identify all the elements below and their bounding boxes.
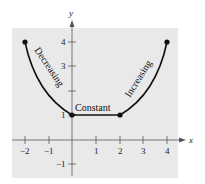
y-tick-label: −1: [56, 159, 66, 169]
point-end: [164, 39, 169, 44]
x-tick-label: 4: [165, 146, 170, 156]
x-axis-arrow-icon: [179, 138, 186, 143]
y-tick-label: 1: [61, 110, 66, 120]
x-tick-label: 2: [118, 146, 123, 156]
x-tick-label: −2: [20, 146, 30, 156]
point-start: [22, 39, 27, 44]
x-tick-label: 3: [141, 146, 146, 156]
x-tick-label: 1: [94, 146, 99, 156]
constant-label: Constant: [75, 102, 111, 113]
y-axis-label: y: [68, 8, 73, 18]
function-graph: x y −2 −1 1 2 3 4 4 3 1 −1 Decreasing Co…: [0, 0, 205, 184]
y-axis-arrow-icon: [70, 20, 75, 27]
x-tick-label: −1: [44, 146, 54, 156]
y-tick-label: 4: [61, 37, 66, 47]
point-constant-start: [69, 112, 74, 117]
x-axis-label: x: [188, 135, 193, 145]
y-tick-label: 3: [61, 61, 66, 71]
point-constant-end: [117, 112, 122, 117]
